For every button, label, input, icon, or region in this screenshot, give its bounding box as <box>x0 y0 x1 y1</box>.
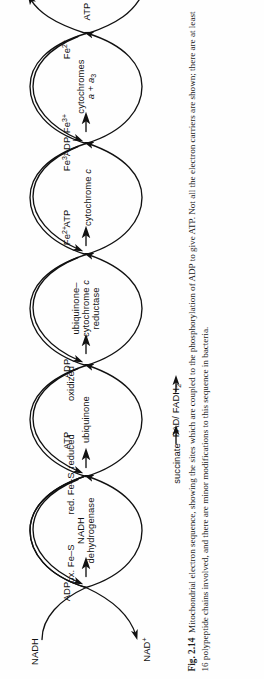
label-fe2plus-cytc: Fe2+ <box>61 225 72 244</box>
loop-name-ubiquinone-cytochrome-c-reductase: ubiquinone– cytochrome c reductase <box>71 280 102 337</box>
label-fad-fadh2: FAD/ FADH2 <box>170 383 182 436</box>
loop-name-nadh-dehydrogenase: NADH dehydrogenase <box>76 497 96 563</box>
electron-transport-chain-diagram: NADH NAD+ H2O 1 2 O2 succinate FAD/ FADH… <box>0 0 200 679</box>
figure-caption-text: Mitochondrial electron sequence, showing… <box>187 11 210 671</box>
loop-name-cytochrome-c: cytochrome c <box>83 169 93 226</box>
label-ox-fe-s: ox. Fe–S <box>65 544 76 582</box>
label-fe3plus-cytaa3: Fe3+ <box>61 113 72 132</box>
figure-number: Fig. 2.14 <box>187 632 197 671</box>
label-nadh: NADH <box>29 638 40 665</box>
label-adp-3: ADP <box>61 136 72 156</box>
label-adp-2: ADP <box>61 358 72 378</box>
figure-page: NADH NAD+ H2O 1 2 O2 succinate FAD/ FADH… <box>0 0 264 679</box>
loop-name-ubiquinone: ubiquinone <box>81 396 91 443</box>
label-red-fe-s: red. Fe–S <box>65 472 76 514</box>
label-nad-plus: NAD+ <box>141 637 152 661</box>
loop-name-cytochromes-a-a3: cytochromes a + a3 <box>76 59 99 113</box>
label-succinate: succinate <box>171 443 182 484</box>
figure-caption: Fig. 2.14Mitochondrial electron sequence… <box>186 11 211 671</box>
label-fe2plus-cytaa3: Fe2+ <box>61 39 72 58</box>
label-adp-1: ADP <box>61 581 72 601</box>
label-atp-1: ATP <box>61 431 72 449</box>
label-atp-2: ATP <box>61 209 72 227</box>
label-atp-3: ATP <box>81 2 92 20</box>
rotated-figure-stage: NADH NAD+ H2O 1 2 O2 succinate FAD/ FADH… <box>0 0 264 679</box>
chain-curves <box>0 0 200 679</box>
